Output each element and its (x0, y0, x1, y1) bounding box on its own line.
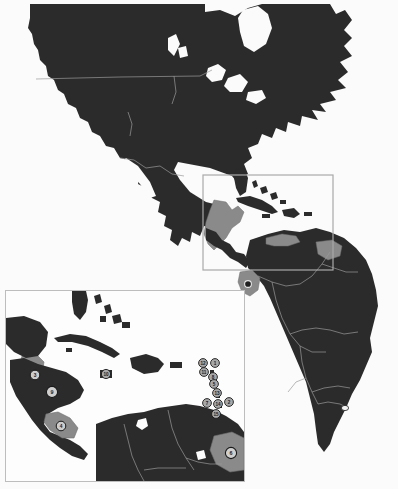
inset-marker-5[interactable]: 5 (210, 380, 219, 389)
inset-marker-15[interactable]: 15 (212, 410, 221, 419)
inset-puerto-rico (170, 362, 182, 368)
inset-marker-14[interactable]: 14 (214, 400, 223, 409)
caribbean-inset-map: 12 1 11 8 5 13 (0, 0, 398, 489)
inset-marker-11[interactable]: 11 (200, 368, 209, 377)
inset-marker-9[interactable]: 9 (46, 386, 57, 397)
inset-marker-7[interactable]: 7 (203, 399, 212, 408)
map-figure: 12 1 11 8 5 13 (0, 0, 398, 489)
inset-marker-2[interactable]: 2 (225, 398, 234, 407)
inset-marker-1[interactable]: 1 (211, 359, 220, 368)
inset-marker-4[interactable]: 4 (56, 421, 66, 431)
inset-isla-juventud (66, 348, 72, 352)
inset-marker-3[interactable]: 3 (30, 370, 40, 380)
inset-marker-12[interactable]: 12 (199, 359, 208, 368)
inset-marker-13[interactable]: 13 (213, 389, 222, 398)
inset-marker-10[interactable]: 10 (101, 369, 110, 378)
inset-marker-6[interactable]: 6 (225, 447, 236, 458)
